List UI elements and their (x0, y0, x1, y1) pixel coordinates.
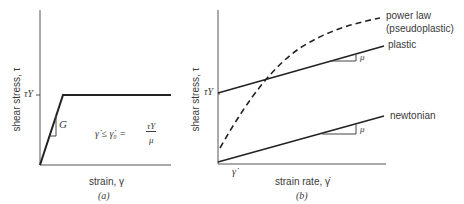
panel-a-equation-denominator: μ (149, 135, 154, 145)
panel-a-yield-label: τY (24, 88, 33, 99)
panel-b-x-tick: γ̇ (232, 166, 236, 177)
panel-a-ylabel: shear stress, τ (11, 60, 22, 140)
panel-b-xlabel: strain rate, γ̇ (275, 176, 330, 187)
plastic-label: plastic (388, 39, 416, 50)
panel-a-xlabel: strain, γ (89, 176, 124, 187)
panel-a-equation-lhs: γ̇ ≤ γ̇₀ = (95, 128, 126, 139)
panel-a-caption: (a) (98, 190, 110, 201)
power-law-sublabel: (pseudoplastic) (386, 23, 454, 34)
newtonian-slope-label: μ (360, 124, 365, 134)
panel-a-equation-numerator: τY (146, 121, 156, 132)
panel-b-plot (218, 10, 386, 164)
panel-a-modulus-label: G (59, 118, 67, 130)
panel-b-yield-label: τY (204, 86, 213, 97)
plastic-slope-label: μ (360, 52, 365, 62)
newtonian-line (218, 116, 384, 162)
panel-b-ylabel: shear stress, τ (190, 60, 201, 140)
newtonian-label: newtonian (390, 110, 436, 121)
power-law-label: power law (386, 10, 431, 21)
panel-b-caption: (b) (296, 190, 308, 201)
